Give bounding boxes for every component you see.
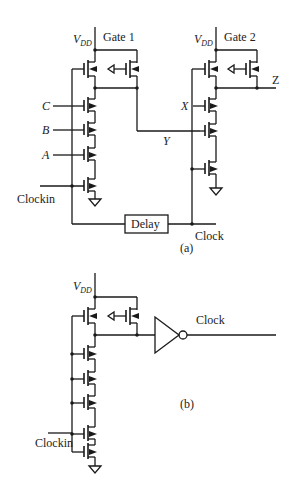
gate1-vdd-label: VDD bbox=[73, 32, 92, 48]
gate2-input-y-label: Y bbox=[163, 134, 171, 148]
gate1-input-a-label: A bbox=[41, 148, 50, 162]
gate2-foot-nmos bbox=[190, 136, 222, 195]
caption-a: (a) bbox=[180, 241, 193, 255]
gate2-nmos-y bbox=[200, 111, 218, 138]
panel-b-clockin-label: Clockin bbox=[35, 436, 73, 450]
caption-b: (b) bbox=[180, 397, 194, 411]
panel-b-nmos-1 bbox=[70, 335, 97, 361]
panel-b: VDD bbox=[35, 273, 276, 473]
gate2-output-z-label: Z bbox=[272, 73, 279, 87]
gate2-input-x-label: X bbox=[180, 99, 189, 113]
gate1-input-c-label: C bbox=[42, 99, 51, 113]
gate1-input-b-label: B bbox=[42, 123, 50, 137]
panel-b-vdd-label: VDD bbox=[73, 279, 92, 295]
gate2-title: Gate 2 bbox=[224, 30, 256, 44]
gate1-nmos-c: C bbox=[42, 88, 97, 113]
gate1-precharge-pmos bbox=[72, 50, 97, 88]
gate1: VDD Gate 1 bbox=[17, 27, 224, 255]
panel-b-keeper-pmos bbox=[108, 307, 139, 335]
gate2-nmos-x: X bbox=[180, 88, 218, 113]
clock-label-a: Clock bbox=[195, 229, 224, 243]
panel-b-nmos-3 bbox=[70, 384, 97, 410]
circuit-diagram: VDD Gate 1 bbox=[0, 0, 293, 477]
panel-b-precharge-pmos bbox=[72, 297, 97, 335]
inverter bbox=[155, 317, 187, 353]
panel-b-clock-output-label: Clock bbox=[196, 313, 225, 327]
gate1-clockin-label: Clockin bbox=[17, 192, 55, 206]
gate2-vdd-label: VDD bbox=[194, 32, 213, 48]
gate2-precharge-pmos bbox=[192, 50, 218, 88]
panel-b-nmos-2 bbox=[70, 359, 97, 386]
gate1-title: Gate 1 bbox=[103, 30, 135, 44]
gate1-nmos-a: A bbox=[41, 135, 97, 162]
gate1-nmos-b: B bbox=[42, 111, 97, 137]
gate1-keeper-pmos bbox=[108, 60, 139, 88]
delay-label: Delay bbox=[131, 217, 160, 231]
gate2: VDD Gate 2 Z bbox=[180, 27, 279, 224]
delay-block: Delay bbox=[125, 215, 168, 233]
panel-b-nmos-4 bbox=[70, 408, 97, 441]
gate2-keeper-pmos bbox=[228, 60, 259, 88]
